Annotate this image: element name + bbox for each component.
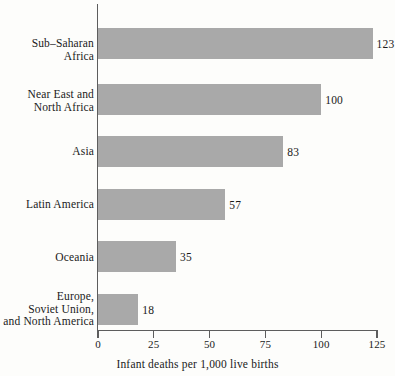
bar	[98, 294, 138, 325]
category-label: Asia	[72, 145, 94, 158]
x-axis-tick-label: 75	[245, 338, 285, 351]
x-axis-tick	[153, 331, 154, 338]
x-axis-line	[97, 330, 378, 331]
bar	[98, 241, 176, 272]
category-label: Latin America	[26, 198, 94, 211]
bar	[98, 136, 283, 167]
bar-value-label: 57	[225, 198, 241, 211]
x-axis-tick	[376, 331, 377, 338]
x-axis-tick	[209, 331, 210, 338]
category-label: Europe, Soviet Union, and North America	[3, 290, 94, 328]
bar-row: 35	[98, 241, 377, 272]
bar-value-label: 18	[138, 303, 154, 316]
bar-row: 18	[98, 294, 377, 325]
category-label: Sub–Saharan Africa	[0, 37, 94, 62]
bar	[98, 84, 321, 115]
bar-value-label: 83	[283, 145, 299, 158]
bar-value-label: 35	[176, 250, 192, 263]
category-label: Oceania	[55, 251, 94, 264]
bar-row: 100	[98, 84, 377, 115]
x-axis-tick-label: 50	[190, 338, 230, 351]
x-axis-tick	[97, 331, 98, 338]
x-axis-tick-label: 125	[357, 338, 395, 351]
x-axis-tick-label: 25	[134, 338, 174, 351]
x-axis-tick	[265, 331, 266, 338]
bar-value-label: 123	[373, 37, 395, 50]
category-label: Near East and North Africa	[28, 88, 94, 113]
bar	[98, 189, 225, 220]
x-axis-title: Infant deaths per 1,000 live births	[0, 357, 395, 371]
bar-value-label: 100	[321, 93, 343, 106]
bar	[98, 28, 373, 59]
bar-chart: 0 25 50 75 100 125 Sub–Saharan Africa 12…	[0, 0, 395, 376]
x-axis-tick-label: 0	[78, 338, 118, 351]
x-axis-tick	[321, 331, 322, 338]
bar-row: 83	[98, 136, 377, 167]
bar-row: 57	[98, 189, 377, 220]
bar-row: 123	[98, 28, 377, 59]
x-axis-tick-label: 100	[301, 338, 341, 351]
